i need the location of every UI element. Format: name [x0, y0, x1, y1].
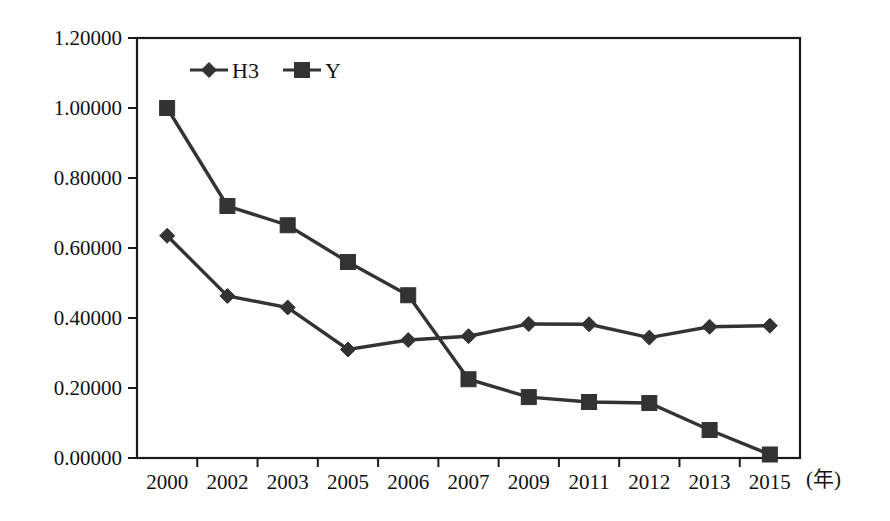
x-tick-label: 2015: [749, 470, 791, 494]
data-point-marker-diamond: [642, 330, 657, 345]
data-point-marker-square: [160, 101, 175, 116]
legend-marker-square: [295, 63, 310, 78]
data-point-marker-diamond: [521, 316, 536, 331]
data-point-marker-diamond: [762, 318, 777, 333]
legend-item-Y: Y: [283, 58, 341, 83]
y-tick-label: 0.40000: [54, 306, 122, 330]
x-tick-label: 2009: [508, 470, 550, 494]
series-line-Y: [167, 108, 770, 455]
legend-item-H3: H3: [190, 58, 259, 83]
x-tick-label: 2000: [146, 470, 188, 494]
data-point-marker-square: [762, 447, 777, 462]
x-axis: 2000200220032005200620072009201120122013…: [146, 458, 791, 494]
x-tick-label: 2012: [628, 470, 670, 494]
data-point-marker-diamond: [401, 333, 416, 348]
data-point-marker-square: [461, 372, 476, 387]
x-tick-label: 2002: [206, 470, 248, 494]
chart-legend: H3Y: [190, 58, 341, 83]
y-axis: 0.000000.200000.400000.600000.800001.000…: [54, 26, 137, 470]
y-tick-label: 0.60000: [54, 236, 122, 260]
data-point-marker-square: [521, 390, 536, 405]
x-tick-label: 2005: [327, 470, 369, 494]
series-Y: [160, 101, 778, 463]
data-series-group: [160, 101, 778, 463]
data-point-marker-diamond: [461, 329, 476, 344]
data-point-marker-diamond: [702, 319, 717, 334]
x-tick-label: 2013: [689, 470, 731, 494]
y-tick-label: 0.80000: [54, 166, 122, 190]
chart-canvas: 0.000000.200000.400000.600000.800001.000…: [0, 0, 890, 521]
data-point-marker-diamond: [582, 317, 597, 332]
x-tick-label: 2011: [568, 470, 609, 494]
data-point-marker-square: [401, 288, 416, 303]
plot-area-border: [137, 38, 800, 458]
legend-label: H3: [232, 58, 259, 83]
series-H3: [160, 228, 778, 357]
y-tick-label: 0.00000: [54, 446, 122, 470]
x-tick-label: 2003: [267, 470, 309, 494]
y-tick-label: 1.00000: [54, 96, 122, 120]
y-tick-label: 1.20000: [54, 26, 122, 50]
data-point-marker-square: [220, 199, 235, 214]
data-point-marker-square: [340, 255, 355, 270]
legend-marker-diamond: [202, 63, 217, 78]
y-tick-label: 0.20000: [54, 376, 122, 400]
x-tick-label: 2007: [448, 470, 490, 494]
data-point-marker-square: [642, 396, 657, 411]
data-point-marker-square: [582, 395, 597, 410]
data-point-marker-square: [702, 423, 717, 438]
x-tick-label: 2006: [387, 470, 429, 494]
line-chart-figure: 0.000000.200000.400000.600000.800001.000…: [0, 0, 890, 521]
x-axis-unit-label: (年): [806, 467, 841, 491]
legend-label: Y: [325, 58, 341, 83]
data-point-marker-square: [280, 218, 295, 233]
